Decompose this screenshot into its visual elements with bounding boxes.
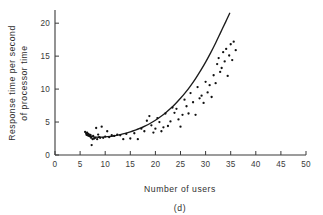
data-point xyxy=(185,105,187,107)
x-tick-label: 0 xyxy=(53,160,58,169)
data-point xyxy=(150,124,152,126)
data-point xyxy=(228,54,230,56)
data-point xyxy=(108,136,110,138)
scatter-chart: 05101520253035404550 05101520 Number of … xyxy=(0,0,323,215)
data-point xyxy=(133,132,135,134)
y-axis-title-line2: of processor time xyxy=(19,45,29,120)
data-point xyxy=(179,126,181,128)
data-point xyxy=(92,135,94,137)
data-point xyxy=(224,60,226,62)
data-point xyxy=(194,114,196,116)
y-axis-title-line1: Response time per second xyxy=(7,25,17,140)
y-tick-label: 15 xyxy=(40,52,50,61)
data-point xyxy=(102,137,104,139)
data-point xyxy=(162,126,164,128)
data-point xyxy=(189,92,191,94)
data-point xyxy=(171,106,173,108)
data-point xyxy=(122,138,124,140)
data-point xyxy=(198,97,200,99)
data-point xyxy=(169,120,171,122)
data-point xyxy=(91,144,93,146)
data-point xyxy=(212,74,214,76)
data-point xyxy=(208,84,210,86)
data-point xyxy=(214,82,216,84)
data-point xyxy=(119,134,121,136)
x-tick-label: 50 xyxy=(301,160,311,169)
data-point xyxy=(104,135,106,137)
data-point xyxy=(230,43,232,45)
figure-caption: (d) xyxy=(174,203,187,213)
y-tick-label: 5 xyxy=(45,118,50,127)
data-point xyxy=(167,125,169,127)
y-tick-label: 20 xyxy=(40,19,50,28)
data-point xyxy=(129,137,131,139)
data-point xyxy=(210,96,212,98)
x-tick-label: 30 xyxy=(201,160,211,169)
data-point xyxy=(204,81,206,83)
data-point xyxy=(181,114,183,116)
data-point xyxy=(89,134,91,136)
data-point xyxy=(173,112,175,114)
data-point xyxy=(160,130,162,132)
y-tick-label: 0 xyxy=(45,151,50,160)
data-point xyxy=(177,118,179,120)
data-point xyxy=(146,120,148,122)
data-point xyxy=(95,127,97,129)
data-point xyxy=(175,108,177,110)
x-tick-label: 35 xyxy=(226,160,236,169)
x-tick-label: 25 xyxy=(176,160,186,169)
data-point xyxy=(97,133,99,135)
data-point xyxy=(187,112,189,114)
data-point xyxy=(183,98,185,100)
figure-panel: 05101520253035404550 05101520 Number of … xyxy=(0,0,323,215)
x-tick-label: 20 xyxy=(151,160,161,169)
data-point xyxy=(125,133,127,135)
plot-axes xyxy=(55,10,306,155)
y-tick-label: 10 xyxy=(40,85,50,94)
y-axis-title: Response time per second of processor ti… xyxy=(7,25,29,140)
data-point xyxy=(116,133,118,135)
x-tick-label: 40 xyxy=(251,160,261,169)
x-tick-label: 10 xyxy=(100,160,110,169)
data-point xyxy=(206,91,208,93)
data-points xyxy=(84,40,237,146)
data-point xyxy=(227,75,229,77)
x-axis-title-label: Number of users xyxy=(144,184,216,194)
y-axis-ticks: 05101520 xyxy=(40,19,59,160)
x-tick-label: 5 xyxy=(78,160,83,169)
data-point xyxy=(137,138,139,140)
data-point xyxy=(202,102,204,104)
x-tick-label: 15 xyxy=(126,160,136,169)
data-point xyxy=(106,130,108,132)
x-axis-title: Number of users xyxy=(144,184,216,194)
data-point xyxy=(221,67,223,69)
data-point xyxy=(231,59,233,61)
data-point xyxy=(222,51,224,53)
data-point xyxy=(140,127,142,129)
data-point xyxy=(216,63,218,65)
data-point xyxy=(96,138,98,140)
data-point xyxy=(154,127,156,129)
data-point xyxy=(148,115,150,117)
data-point xyxy=(218,57,220,59)
x-tick-label: 45 xyxy=(276,160,286,169)
data-point xyxy=(196,86,198,88)
data-point xyxy=(152,131,154,133)
data-point xyxy=(192,101,194,103)
data-point xyxy=(200,95,202,97)
data-point xyxy=(219,71,221,73)
data-point xyxy=(164,112,166,114)
data-point xyxy=(225,48,227,50)
data-point xyxy=(101,126,103,128)
data-point xyxy=(111,134,113,136)
data-point xyxy=(233,40,235,42)
data-point xyxy=(158,121,160,123)
data-point xyxy=(94,137,96,139)
data-point xyxy=(156,117,158,119)
data-point xyxy=(99,137,101,139)
data-point xyxy=(113,135,115,137)
x-axis-ticks: 05101520253035404550 xyxy=(53,151,311,169)
data-point xyxy=(143,130,145,132)
data-point xyxy=(235,49,237,51)
